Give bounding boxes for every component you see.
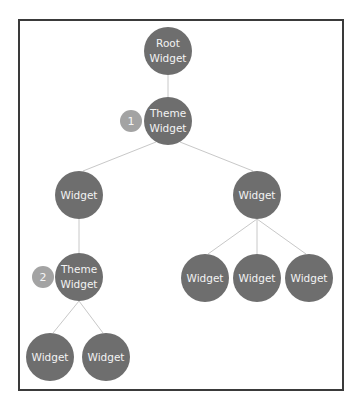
edge-theme2-l1 xyxy=(53,301,79,333)
node-widget-l1: Widget xyxy=(26,333,74,381)
node-label: Theme xyxy=(150,106,187,121)
node-widget-r3: Widget xyxy=(285,254,333,302)
node-label: Widget xyxy=(239,271,276,286)
edge-theme1-left xyxy=(83,142,156,171)
node-widget-right: Widget xyxy=(233,171,281,219)
node-label: Widget xyxy=(88,350,125,365)
node-label: Widget xyxy=(291,271,328,286)
node-widget-left: Widget xyxy=(55,171,103,219)
edge-right-r1 xyxy=(208,219,257,254)
node-root-widget: RootWidget xyxy=(144,27,192,75)
badge-1: 1 xyxy=(120,110,142,132)
node-theme-widget-2: ThemeWidget xyxy=(55,253,103,301)
edge-right-r3 xyxy=(257,219,306,254)
node-widget-r1: Widget xyxy=(181,254,229,302)
node-label: Widget xyxy=(150,121,187,136)
node-label: Widget xyxy=(150,51,187,66)
node-theme-widget-1: ThemeWidget xyxy=(144,97,192,145)
node-label: Root xyxy=(150,36,187,51)
node-label: Widget xyxy=(61,188,98,203)
badge-2: 2 xyxy=(32,266,54,288)
node-label: Widget xyxy=(239,188,276,203)
node-widget-l2: Widget xyxy=(82,333,130,381)
node-label: Widget xyxy=(187,271,224,286)
node-widget-r2: Widget xyxy=(233,254,281,302)
node-label: Theme xyxy=(61,262,98,277)
node-label: Widget xyxy=(32,350,69,365)
edge-theme2-l2 xyxy=(79,301,103,333)
node-label: Widget xyxy=(61,277,98,292)
edge-theme1-right xyxy=(180,142,253,171)
